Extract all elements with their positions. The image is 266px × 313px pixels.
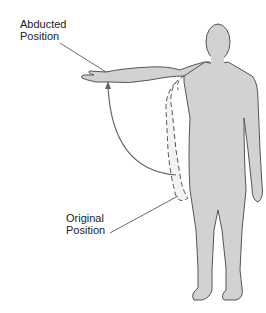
torso-and-legs <box>184 62 263 300</box>
abducted-leader-line <box>60 43 106 72</box>
original-label-line1: Original <box>66 212 105 224</box>
original-label-line2: Position <box>66 224 105 236</box>
abduction-arc-arrow <box>108 86 176 175</box>
abduction-diagram: Abducted Position Original Position <box>0 0 266 313</box>
abducted-position-label: Abducted Position <box>20 18 66 42</box>
original-position-label: Original Position <box>66 212 105 236</box>
shoulder-dashed-line <box>178 76 184 90</box>
abducted-label-line2: Position <box>20 30 66 42</box>
abducted-label-line1: Abducted <box>20 18 66 30</box>
figure-illustration <box>0 0 266 313</box>
original-leader-line <box>110 196 178 233</box>
original-arm-outline <box>166 80 188 201</box>
head <box>206 24 230 60</box>
